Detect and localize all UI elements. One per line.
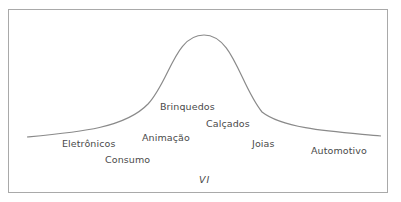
label-calcados: Calçados [206,118,250,129]
label-joias: Joias [252,138,275,149]
label-consumo: Consumo [105,154,150,165]
axis-label-vi: VI [199,174,210,185]
label-automotivo: Automotivo [311,145,367,156]
label-eletronicos: Eletrônicos [62,138,115,149]
label-brinquedos: Brinquedos [160,101,215,112]
label-animacao: Animação [142,132,190,143]
